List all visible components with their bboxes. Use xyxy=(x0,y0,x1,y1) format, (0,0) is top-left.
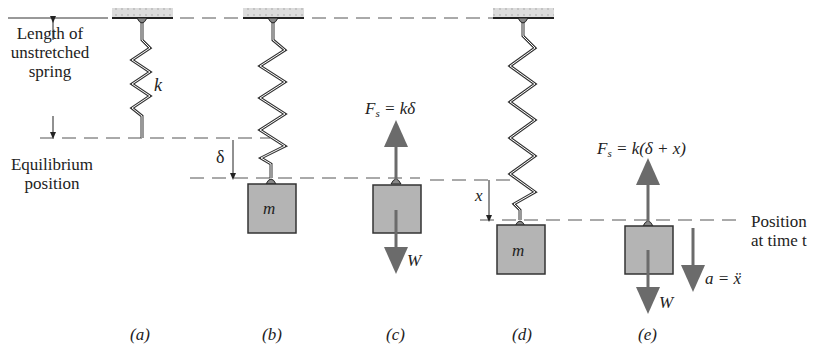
acceleration-label: a = ẍ xyxy=(705,270,741,287)
label-line: Equilibrium xyxy=(0,155,104,174)
label-line: at time t xyxy=(751,231,807,250)
equilibrium-position-label: Equilibrium position xyxy=(0,155,104,193)
spring-a xyxy=(132,20,150,138)
label-line: Position xyxy=(751,212,807,231)
label-line: position xyxy=(0,174,104,193)
force-rhs: = kδ xyxy=(380,99,415,118)
label-line: Length of xyxy=(0,24,100,43)
spring-force-label-c: Fs = kδ xyxy=(365,100,415,119)
spring-mass-diagram: Length of unstretched spring Equilibrium… xyxy=(0,0,817,357)
weight-label-c: W xyxy=(407,252,421,269)
force-rhs: = k(δ + x) xyxy=(612,139,686,158)
caption-b: (b) xyxy=(262,326,282,343)
position-at-time-label: Position at time t xyxy=(751,212,807,250)
spring-force-label-e: Fs = k(δ + x) xyxy=(597,140,686,159)
caption-c: (c) xyxy=(386,326,405,343)
delta-label: δ xyxy=(216,148,224,166)
diagram-graphics xyxy=(0,0,817,357)
label-line: spring xyxy=(0,62,100,81)
caption-a: (a) xyxy=(130,326,150,343)
spring-b xyxy=(260,20,285,178)
spring-constant-label: k xyxy=(154,76,162,94)
caption-e: (e) xyxy=(638,326,657,343)
force-symbol: F xyxy=(597,139,607,158)
label-line: unstretched xyxy=(0,43,100,62)
ceilings xyxy=(112,8,554,18)
spring-d xyxy=(510,20,535,220)
weight-label-e: W xyxy=(659,294,673,311)
caption-d: (d) xyxy=(512,326,532,343)
unstretched-length-label: Length of unstretched spring xyxy=(0,24,100,81)
force-symbol: F xyxy=(365,99,375,118)
mass-label-d: m xyxy=(512,242,524,259)
masses xyxy=(248,184,673,274)
mass-label-b: m xyxy=(263,200,275,217)
displacement-label: x xyxy=(475,187,483,204)
